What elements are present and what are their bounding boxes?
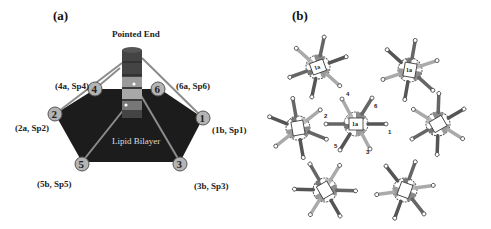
node-2-label: (2a, Sp2): [15, 123, 49, 133]
unit-bottom-left: [285, 148, 365, 229]
unit-left: [265, 92, 331, 165]
actin-filament: [122, 47, 142, 118]
diagram-canvas: 1 2 3 4 5 6: [0, 0, 491, 229]
unit-center: 1a 1 2 3 4 5 6: [324, 91, 392, 155]
svg-text:6: 6: [155, 83, 161, 95]
unit-top-right: 1a: [377, 34, 443, 107]
lipid-bilayer-label: Lipid Bilayer: [112, 136, 160, 146]
svg-text:1: 1: [388, 129, 392, 135]
node-3: 3: [173, 157, 187, 171]
node-6-label: (6a, Sp6): [176, 81, 210, 91]
svg-text:5: 5: [79, 158, 85, 170]
svg-text:1a: 1a: [352, 121, 358, 127]
node-6: 6: [151, 82, 165, 96]
svg-text:5: 5: [334, 143, 338, 149]
node-5-label: (5b, Sp5): [37, 179, 72, 189]
node-4-label: (4a, Sp4): [55, 81, 89, 91]
unit-right: [396, 84, 479, 164]
node-1-label: (1b, Sp1): [212, 125, 247, 135]
svg-text:1a: 1a: [406, 67, 412, 73]
svg-text:2: 2: [52, 108, 58, 120]
node-2: 2: [48, 107, 62, 121]
node-5: 5: [75, 157, 89, 171]
panel-b-label: (b): [292, 8, 308, 24]
node-1: 1: [196, 111, 210, 125]
unit-bottom-right: [368, 150, 443, 229]
svg-text:1: 1: [200, 112, 206, 124]
svg-text:2: 2: [324, 113, 328, 119]
svg-text:4: 4: [92, 83, 98, 95]
svg-text:3: 3: [177, 158, 183, 170]
node-4: 4: [88, 82, 102, 96]
svg-text:4: 4: [346, 91, 350, 97]
node-3-label: (3b, Sp3): [194, 181, 229, 191]
svg-text:6: 6: [374, 103, 378, 109]
